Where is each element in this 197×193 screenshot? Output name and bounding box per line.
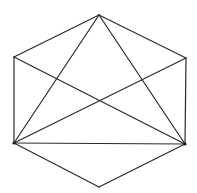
- vertex-lower-left: [12, 141, 15, 144]
- vertex-lower-right: [183, 142, 186, 145]
- edge-top-to-upper-left: [14, 15, 99, 57]
- hexagon-diagram: [0, 0, 197, 193]
- edge-upper-right-to-lower-right: [185, 58, 186, 144]
- edge-top-to-upper-right: [99, 15, 186, 58]
- diagram-edges: [14, 15, 186, 187]
- edge-lower-left-to-lower-right: [14, 143, 185, 144]
- edge-lower-left-to-bottom: [14, 143, 99, 187]
- edge-lower-right-to-bottom: [99, 144, 185, 187]
